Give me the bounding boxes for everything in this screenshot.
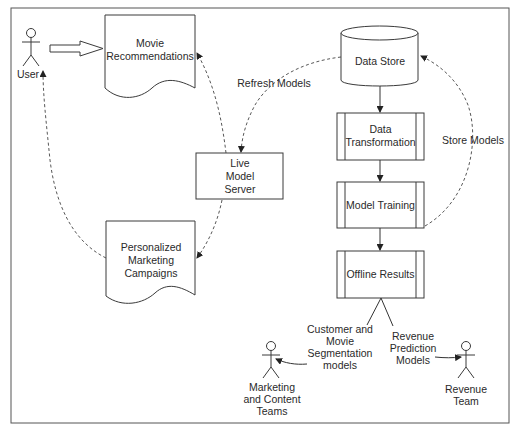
edge-label-store-models: Store Models xyxy=(442,134,504,146)
database-data-store: Data Store xyxy=(341,26,418,86)
box-live-model-server: Live Model Server xyxy=(196,153,283,199)
process-label: Model Training xyxy=(346,199,415,211)
process-offline-results: Offline Results xyxy=(337,251,424,298)
architecture-diagram: User Movie Recommendations Personalized … xyxy=(0,0,516,434)
box-label: Server xyxy=(225,183,256,195)
edge-label-customer-segmentation: Customer and xyxy=(307,323,373,335)
document-label: Marketing xyxy=(128,254,174,266)
edge-label-revenue-prediction: Prediction xyxy=(390,342,437,354)
document-label: Recommendations xyxy=(106,50,194,62)
process-data-transformation: Data Transformation xyxy=(337,113,424,160)
process-label: Offline Results xyxy=(346,268,414,280)
box-label: Live xyxy=(230,157,249,169)
process-model-training: Model Training xyxy=(337,182,424,228)
edge-label-customer-segmentation: models xyxy=(323,359,357,371)
document-label: Campaigns xyxy=(124,267,177,279)
edge-label-customer-segmentation: Segmentation xyxy=(308,347,373,359)
box-label: Model xyxy=(226,170,255,182)
actor-label: Team xyxy=(453,395,479,407)
edge-label-revenue-prediction: Models xyxy=(396,354,430,366)
actor-label: Teams xyxy=(257,405,288,417)
database-label: Data Store xyxy=(355,55,405,67)
actor-label: Revenue xyxy=(445,383,487,395)
actor-label: Marketing xyxy=(249,381,295,393)
diagram-frame xyxy=(11,8,509,423)
document-label: Movie xyxy=(136,37,164,49)
edge-label-refresh-models: Refresh Models xyxy=(237,77,311,89)
edge-label-revenue-prediction: Revenue xyxy=(392,330,434,342)
actor-label: User xyxy=(17,68,40,80)
actor-label: and Content xyxy=(243,393,300,405)
process-label: Data xyxy=(369,123,391,135)
process-label: Transformation xyxy=(345,136,415,148)
edge-label-customer-segmentation: Movie xyxy=(326,335,354,347)
document-label: Personalized xyxy=(121,241,182,253)
